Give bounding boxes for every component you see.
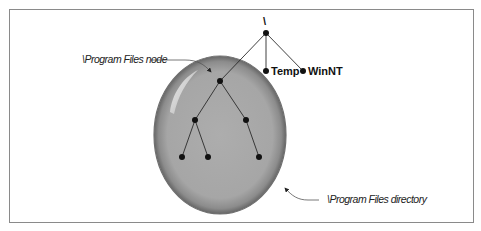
subtree-node: [243, 117, 249, 123]
temp-node: [263, 68, 269, 74]
program-files-diagram: \ Temp WinNT \Program Files node \Progra…: [0, 0, 481, 231]
winnt-node: [300, 68, 306, 74]
root-label: \: [263, 15, 266, 27]
program-files-directory-label: \Program Files directory: [327, 193, 428, 205]
subtree-leaf: [256, 154, 262, 160]
subtree-leaf: [205, 154, 211, 160]
program-files-node: [217, 78, 223, 84]
root-node: [263, 30, 269, 36]
winnt-label: WinNT: [308, 65, 343, 77]
subtree-leaf: [179, 154, 185, 160]
temp-label: Temp: [271, 65, 300, 77]
subtree-node: [192, 117, 198, 123]
program-files-node-label: \Program Files node: [82, 53, 168, 65]
